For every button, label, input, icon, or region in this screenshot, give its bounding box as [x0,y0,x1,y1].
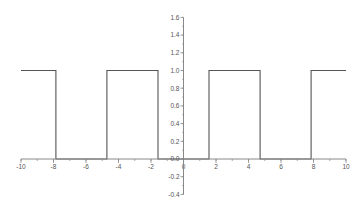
y-axis: -0.4-0.20.20.40.60.81.01.21.41.60.0 [168,14,183,198]
x-tick-label: 2 [214,163,218,170]
y-tick-label: 1.0 [170,67,179,74]
y-tick-label: 0.2 [170,138,179,145]
x-tick-label: 4 [247,163,251,170]
y-tick-label: 1.4 [170,31,179,38]
y-tick-label: 0.8 [170,85,179,92]
x-tick-label: -2 [148,163,154,170]
y-tick-label: 0.0 [170,155,179,162]
x-tick-label: -4 [116,163,122,170]
x-tick-label: 10 [342,163,350,170]
x-tick-label: -8 [51,163,57,170]
y-tick-label: -0.2 [168,173,180,180]
x-tick-label: -10 [16,163,26,170]
y-tick-label: 0.4 [170,120,179,127]
y-tick-label: -0.4 [168,191,180,198]
x-tick-label: -6 [83,163,89,170]
x-tick-label: 8 [312,163,316,170]
y-tick-label: 0.6 [170,102,179,109]
y-tick-label: 1.6 [170,14,179,21]
x-tick-label: 6 [279,163,283,170]
chart: -10-8-6-4-20246810 -0.4-0.20.20.40.60.81… [0,0,364,210]
y-tick-label: 1.2 [170,49,179,56]
